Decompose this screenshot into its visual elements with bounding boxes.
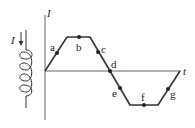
coil-current-label: I	[10, 34, 16, 46]
point-e	[118, 86, 122, 90]
point-f	[142, 103, 146, 107]
point-a	[55, 51, 59, 55]
current-arrow-icon	[19, 32, 24, 46]
label-f: f	[141, 91, 145, 103]
inductor-current-diagram: I I t a b c d e f g	[0, 0, 195, 128]
label-e: e	[112, 87, 117, 99]
y-axis-label: I	[46, 7, 52, 19]
point-labels: a b c d e f g	[50, 41, 176, 103]
label-d: d	[111, 58, 117, 70]
label-b: b	[76, 41, 82, 53]
point-c	[96, 50, 100, 54]
label-a: a	[50, 41, 55, 53]
label-c: c	[101, 43, 106, 55]
label-g: g	[170, 88, 176, 100]
x-axis-label: t	[183, 65, 187, 77]
point-b	[77, 35, 81, 39]
inductor-coil: I	[10, 30, 32, 108]
